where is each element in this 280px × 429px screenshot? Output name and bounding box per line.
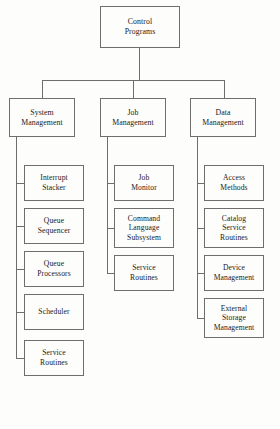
node-label: System Management bbox=[19, 108, 65, 128]
node-data-management[interactable]: Data Management bbox=[190, 98, 256, 137]
node-queue-sequencer[interactable]: Queue Sequencer bbox=[24, 208, 84, 244]
connector-drop-system bbox=[42, 80, 43, 98]
connector-spine-system bbox=[16, 137, 17, 358]
node-label: Device Management bbox=[212, 263, 257, 282]
node-label: Queue Sequencer bbox=[36, 216, 73, 235]
node-label: Command Language Subsystem bbox=[125, 214, 163, 243]
connector-stub-system-0 bbox=[16, 183, 24, 184]
org-chart-canvas: Control Programs System Management Job M… bbox=[0, 0, 280, 429]
node-label: Service Routines bbox=[38, 348, 70, 367]
connector-stub-data-1 bbox=[197, 228, 204, 229]
connector-stub-data-2 bbox=[197, 273, 204, 274]
node-label: Interrupt Stacker bbox=[38, 173, 69, 192]
node-queue-processors[interactable]: Queue Processors bbox=[24, 251, 84, 287]
node-interrupt-stacker[interactable]: Interrupt Stacker bbox=[24, 165, 84, 201]
node-label: External Storage Management bbox=[212, 304, 257, 333]
connector-drop-data bbox=[224, 80, 225, 98]
node-label: Control Programs bbox=[123, 17, 158, 37]
node-job-service-routines[interactable]: Service Routines bbox=[114, 255, 174, 291]
node-system-service-routines[interactable]: Service Routines bbox=[24, 340, 84, 376]
node-label: Job Monitor bbox=[129, 173, 159, 192]
connector-stub-system-1 bbox=[16, 226, 24, 227]
node-label: Access Methods bbox=[218, 173, 249, 192]
connector-stub-system-2 bbox=[16, 269, 24, 270]
connector-root-stem bbox=[139, 48, 140, 80]
node-label: Catalog Service Routines bbox=[218, 214, 250, 243]
connector-spine-job bbox=[107, 137, 108, 273]
connector-stub-job-0 bbox=[107, 183, 114, 184]
node-access-methods[interactable]: Access Methods bbox=[204, 165, 264, 201]
node-scheduler[interactable]: Scheduler bbox=[24, 294, 84, 330]
node-job-monitor[interactable]: Job Monitor bbox=[114, 165, 174, 201]
node-command-language-subsystem[interactable]: Command Language Subsystem bbox=[114, 208, 174, 248]
node-job-management[interactable]: Job Management bbox=[100, 98, 166, 137]
connector-stub-data-3 bbox=[197, 318, 204, 319]
node-label: Service Routines bbox=[128, 263, 160, 282]
node-label: Job Management bbox=[110, 108, 156, 128]
node-system-management[interactable]: System Management bbox=[9, 98, 75, 137]
connector-stub-system-4 bbox=[16, 358, 24, 359]
connector-stub-data-0 bbox=[197, 183, 204, 184]
connector-stub-system-3 bbox=[16, 312, 24, 313]
node-label: Scheduler bbox=[36, 307, 71, 317]
node-control-programs[interactable]: Control Programs bbox=[100, 6, 180, 48]
node-device-management[interactable]: Device Management bbox=[204, 255, 264, 291]
node-label: Data Management bbox=[200, 108, 246, 128]
node-label: Queue Processors bbox=[35, 259, 72, 278]
connector-stub-job-1 bbox=[107, 228, 114, 229]
node-catalog-service-routines[interactable]: Catalog Service Routines bbox=[204, 208, 264, 248]
connector-drop-job bbox=[133, 80, 134, 98]
node-external-storage-management[interactable]: External Storage Management bbox=[204, 298, 264, 338]
connector-stub-job-2 bbox=[107, 273, 114, 274]
